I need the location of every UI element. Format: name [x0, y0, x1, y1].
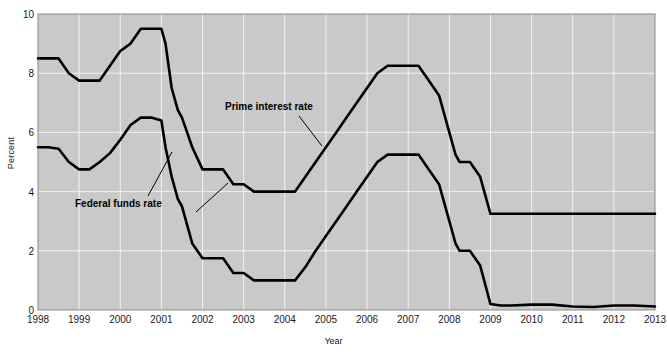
x-tick-2009: 2009 [467, 314, 513, 325]
x-tick-2007: 2007 [385, 314, 431, 325]
x-tick-2004: 2004 [262, 314, 308, 325]
y-axis-ticks: 10 8 6 4 2 0 [2, 0, 34, 358]
prime-rate-annotation: Prime interest rate [225, 101, 313, 112]
x-tick-2001: 2001 [138, 314, 184, 325]
x-tick-2012: 2012 [591, 314, 637, 325]
x-axis-ticks: 1998199920002001200220032004200520062007… [0, 312, 667, 328]
interest-rate-chart: Percent 10 8 6 4 2 0 Prime interest rate… [0, 0, 667, 358]
x-tick-1998: 1998 [15, 314, 61, 325]
plot-canvas [0, 0, 667, 358]
x-tick-2006: 2006 [344, 314, 390, 325]
x-tick-1999: 1999 [56, 314, 102, 325]
y-tick-4: 4 [8, 186, 34, 197]
x-tick-2000: 2000 [97, 314, 143, 325]
y-tick-10: 10 [8, 9, 34, 20]
federal-funds-rate-annotation: Federal funds rate [75, 198, 162, 209]
plot-background [38, 14, 655, 310]
x-tick-2010: 2010 [509, 314, 555, 325]
y-tick-6: 6 [8, 127, 34, 138]
x-tick-2003: 2003 [221, 314, 267, 325]
x-tick-2011: 2011 [550, 314, 596, 325]
x-axis-title: Year [0, 336, 667, 346]
y-tick-2: 2 [8, 245, 34, 256]
x-tick-2005: 2005 [303, 314, 349, 325]
x-tick-2002: 2002 [180, 314, 226, 325]
x-tick-2008: 2008 [426, 314, 472, 325]
x-tick-2013: 2013 [632, 314, 667, 325]
y-tick-8: 8 [8, 68, 34, 79]
